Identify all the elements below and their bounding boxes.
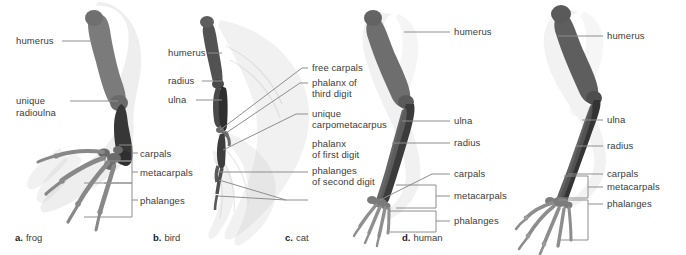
bird-ulna-bone [219,86,228,131]
label-bird-ulna: ulna [168,94,186,106]
caption-bird-letter: b. [153,232,161,243]
human-digit-bones [516,203,571,254]
bird-carpometacarpus-bone [217,134,226,169]
caption-human: d.human [402,232,443,243]
caption-frog-letter: a. [15,232,23,243]
caption-cat-letter: c. [285,232,293,243]
caption-bird-text: bird [164,232,180,243]
label-cat-phalanges: phalanges [454,215,499,227]
label-human-radius: radius [607,140,633,152]
panel-bird: humerus radius ulna free carpals phalanx… [160,0,340,255]
label-cat-carpals: carpals [454,168,485,180]
label-frog-radioulna-line1: unique [16,95,45,107]
caption-cat-text: cat [296,232,309,243]
human-limb-illustration [510,0,686,255]
caption-frog: a.frog [15,232,42,243]
label-cat-radius: radius [454,137,480,149]
caption-human-letter: d. [402,232,410,243]
homologous-forelimbs-figure: humerus unique radioulna carpals metacar… [0,0,686,255]
label-bird-radius: radius [168,75,194,87]
label-bird-humerus: humerus [168,47,206,59]
label-human-metacarpals: metacarpals [607,181,660,193]
panel-human: humerus ulna radius carpals metacarpals … [510,0,686,255]
label-human-humerus: humerus [607,30,645,42]
label-cat-metacarpals: metacarpals [454,190,507,202]
label-human-carpals: carpals [607,168,638,180]
caption-cat: c.cat [285,232,309,243]
caption-human-text: human [413,232,442,243]
label-frog-radioulna-line2: radioulna [16,107,56,119]
label-cat-ulna: ulna [454,115,472,127]
frog-humerus-bone [88,13,126,108]
label-bird-carpometacarpus-line1: unique [312,108,341,120]
caption-bird: b.bird [153,232,180,243]
label-human-ulna: ulna [607,114,625,126]
panel-cat: humerus ulna radius carpals metacarpals … [340,0,510,255]
label-frog-humerus: humerus [16,35,54,47]
label-human-phalanges: phalanges [607,198,652,210]
panel-frog: humerus unique radioulna carpals metacar… [0,0,160,255]
label-cat-humerus: humerus [454,26,492,38]
cat-digit-bones [354,205,389,246]
caption-frog-text: frog [26,232,42,243]
